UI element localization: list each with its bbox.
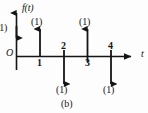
- origin-label: O: [6, 48, 13, 58]
- impulse-plot-canvas: [0, 0, 148, 113]
- amplitude-label-t4: (1): [103, 85, 114, 95]
- amplitude-label-t0: (1): [0, 23, 7, 33]
- amplitude-label-t3: (1): [79, 17, 90, 27]
- tick-label-2: 2: [61, 41, 66, 51]
- impulse-train-figure: f(t) t O (1) (1) (1) (1) (1) 1 2 3 4 (b): [0, 0, 148, 113]
- amplitude-label-t1: (1): [31, 17, 42, 27]
- tick-label-1: 1: [37, 58, 42, 68]
- tick-label-3: 3: [85, 58, 90, 68]
- figure-caption: (b): [61, 98, 73, 109]
- amplitude-label-t2: (1): [56, 85, 67, 95]
- tick-label-4: 4: [108, 41, 113, 51]
- y-axis-label: f(t): [22, 3, 33, 13]
- x-axis-label: t: [141, 49, 144, 59]
